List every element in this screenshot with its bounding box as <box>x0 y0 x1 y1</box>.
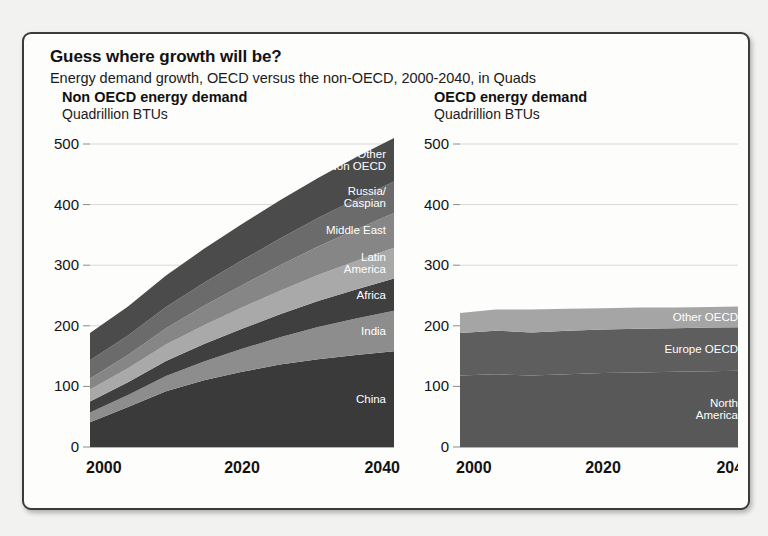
y-tick-label: 0 <box>441 438 449 455</box>
right-panel-units: Quadrillion BTUs <box>434 106 587 122</box>
y-tick-label: 400 <box>54 196 79 213</box>
band-label: Non OECD <box>328 160 386 172</box>
y-tick-label: 500 <box>54 135 79 152</box>
page-title: Guess where growth will be? <box>50 47 734 67</box>
left-panel-title: Non OECD energy demand <box>62 89 247 105</box>
chart-card: Guess where growth will be? Energy deman… <box>22 32 750 510</box>
band-label: Other OECD <box>673 311 738 323</box>
panel-headings: Non OECD energy demand Quadrillion BTUs … <box>38 89 734 129</box>
y-tick-label: 300 <box>424 256 449 273</box>
band-label: Other <box>357 148 386 160</box>
x-tick-label: 2040 <box>716 459 738 476</box>
charts-container: 0100200300400500OtherNon OECDRussia/Casp… <box>38 129 734 489</box>
y-tick-label: 500 <box>424 135 449 152</box>
band-label: China <box>356 393 387 405</box>
x-tick-label: 2020 <box>585 459 621 476</box>
band-label: Europe OECD <box>664 343 738 355</box>
y-tick-label: 100 <box>54 377 79 394</box>
band-label: Africa <box>357 289 387 301</box>
band-label: America <box>344 263 387 275</box>
chart-non-oecd: 0100200300400500OtherNon OECDRussia/Casp… <box>54 135 400 476</box>
band-label: Latin <box>361 251 386 263</box>
y-tick-label: 200 <box>54 317 79 334</box>
y-tick-label: 400 <box>424 196 449 213</box>
band-label: America <box>696 409 738 421</box>
left-panel-units: Quadrillion BTUs <box>62 106 247 122</box>
band-label: India <box>361 325 387 337</box>
band-label: Caspian <box>344 197 386 209</box>
y-tick-label: 100 <box>424 377 449 394</box>
x-tick-label: 2040 <box>364 459 400 476</box>
x-tick-label: 2000 <box>86 459 122 476</box>
left-panel-heading: Non OECD energy demand Quadrillion BTUs <box>62 89 247 122</box>
right-panel-heading: OECD energy demand Quadrillion BTUs <box>434 89 587 122</box>
x-tick-label: 2020 <box>224 459 260 476</box>
right-panel-title: OECD energy demand <box>434 89 587 105</box>
y-tick-label: 300 <box>54 256 79 273</box>
stacked-area-charts: 0100200300400500OtherNon OECDRussia/Casp… <box>38 129 738 489</box>
band-label: North <box>710 397 738 409</box>
band-label: Middle East <box>326 224 387 236</box>
band-label: Russia/ <box>348 185 387 197</box>
y-tick-label: 200 <box>424 317 449 334</box>
y-tick-label: 0 <box>71 438 79 455</box>
chart-oecd: 0100200300400500Other OECDEurope OECDNor… <box>424 135 738 476</box>
page-subtitle: Energy demand growth, OECD versus the no… <box>50 70 734 86</box>
x-tick-label: 2000 <box>456 459 492 476</box>
